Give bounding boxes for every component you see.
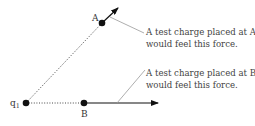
dotted-line-q1-to-a (26, 23, 102, 103)
annotation-a-line-1: A test charge placed at A (145, 27, 255, 37)
charge-q1-dot (23, 100, 30, 107)
leader-line-a (110, 17, 144, 33)
field-diagram: q1 A B A test charge placed at A would f… (0, 0, 255, 126)
annotation-b-line-1: A test charge placed at B (145, 68, 255, 78)
charge-q1-label: q1 (10, 98, 20, 110)
point-b-dot (81, 100, 88, 107)
point-a-dot (99, 20, 106, 27)
annotation-b-line-2: would feel this force. (146, 80, 238, 90)
point-a-label: A (91, 13, 99, 23)
leader-line-b (117, 70, 145, 103)
annotation-a-line-2: would feel this force. (146, 39, 238, 49)
point-b-label: B (81, 109, 88, 119)
